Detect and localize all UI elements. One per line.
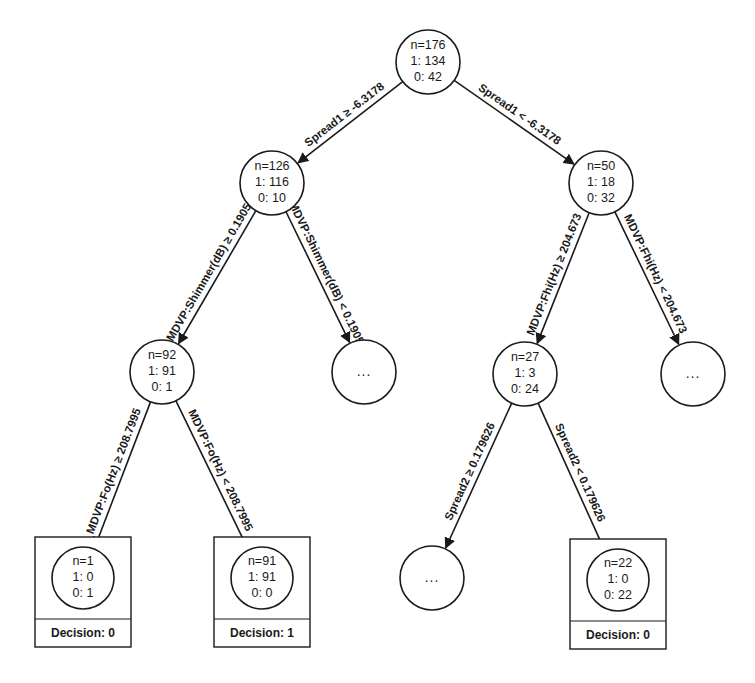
tree-edge: Spread2 < 0.179626 [538,403,608,550]
split-node: n=921: 910: 1 [130,340,194,404]
edge-condition-label: Spread2 < 0.179626 [553,421,608,523]
edge-arrow [446,403,512,548]
edge-arrow [176,401,248,549]
edge-condition-label: Spread2 ≥ 0.179626 [442,421,497,522]
edge-condition-label: MDVP:Fo(Hz) < 208.7995 [186,407,256,533]
node-count-label: n=91 [248,554,276,568]
class-1-count: 1: 91 [148,364,176,378]
edges-layer: Spread1 ≥ -6.3178Spread1 < -6.3178MDVP:S… [84,79,690,549]
edge-arrow [454,80,574,164]
decision-tree-diagram: Spread1 ≥ -6.3178Spread1 < -6.3178MDVP:S… [0,0,755,683]
class-0-count: 0: 22 [604,588,632,602]
class-0-count: 0: 0 [252,586,273,600]
class-1-count: 1: 91 [248,570,276,584]
collapsed-node: ... [661,342,725,406]
nodes-layer: n=1761: 1340: 42n=1261: 1160: 10n=501: 1… [35,30,725,649]
decision-label: Decision: 1 [230,626,294,640]
class-1-count: 1: 3 [515,366,536,380]
node-count-label: n=1 [72,554,93,568]
class-1-count: 1: 134 [411,54,446,68]
class-1-count: 1: 0 [73,570,94,584]
edge-condition-label: MDVP:Fo(Hz) ≥ 208.7995 [84,406,143,535]
leaf-node: Decision: 1n=911: 910: 0 [214,537,310,647]
decision-label: Decision: 0 [51,626,115,640]
edge-condition-label: Spread1 ≥ -6.3178 [302,79,387,148]
class-0-count: 0: 42 [414,70,442,84]
decision-label: Decision: 0 [586,628,650,642]
node-count-label: n=50 [587,159,615,173]
tree-edge: MDVP:Shimmer(dB) ≥ 0.1905 [164,201,256,344]
collapsed-node: ... [332,340,396,404]
ellipsis-label: ... [686,365,701,381]
split-node: n=501: 180: 32 [569,151,633,215]
leaf-node: Decision: 0n=11: 00: 1 [35,537,131,647]
tree-edge: MDVP:Fhi(Hz) ≥ 204.673 [524,212,589,344]
class-1-count: 1: 18 [587,175,615,189]
tree-edge: MDVP:Fo(Hz) < 208.7995 [176,401,256,549]
collapsed-node: ... [400,546,464,610]
split-node: n=1761: 1340: 42 [396,30,460,94]
edge-condition-label: Spread1 < -6.3178 [476,81,563,147]
class-0-count: 0: 1 [152,380,173,394]
edge-condition-label: MDVP:Fhi(Hz) ≥ 204.673 [524,212,583,338]
edge-condition-label: MDVP:Shimmer(dB) ≥ 0.1905 [164,201,254,343]
edge-arrow [538,403,604,550]
tree-edge: MDVP:Fo(Hz) ≥ 208.7995 [84,402,151,547]
tree-edge: MDVP:Shimmer(dB) < 0.1905 [286,199,367,346]
node-count-label: n=92 [148,348,176,362]
class-0-count: 0: 10 [258,191,286,205]
tree-edge: Spread2 ≥ 0.179626 [442,403,512,548]
split-node: n=271: 30: 24 [493,342,557,406]
edge-arrow [298,82,403,163]
leaf-node: Decision: 0n=221: 00: 22 [570,539,666,649]
edge-arrow [286,212,350,343]
tree-edge: Spread1 ≥ -6.3178 [298,79,403,162]
node-count-label: n=27 [511,350,539,364]
edge-condition-label: MDVP:Shimmer(dB) < 0.1905 [287,199,367,346]
ellipsis-label: ... [425,569,440,585]
class-0-count: 0: 32 [587,191,615,205]
edge-arrow [95,402,151,547]
class-0-count: 0: 24 [511,382,539,396]
edge-arrow [179,211,256,344]
class-1-count: 1: 0 [608,572,629,586]
edge-arrow [615,212,679,344]
split-node: n=1261: 1160: 10 [240,151,304,215]
class-1-count: 1: 116 [255,175,289,189]
node-count-label: n=176 [410,38,445,52]
class-0-count: 0: 1 [73,586,94,600]
ellipsis-label: ... [357,363,372,379]
node-count-label: n=126 [254,159,289,173]
node-count-label: n=22 [604,556,632,570]
tree-edge: Spread1 < -6.3178 [454,80,574,164]
tree-edge: MDVP:Fhi(Hz) < 204.673 [615,212,690,344]
edge-condition-label: MDVP:Fhi(Hz) < 204.673 [622,212,690,335]
